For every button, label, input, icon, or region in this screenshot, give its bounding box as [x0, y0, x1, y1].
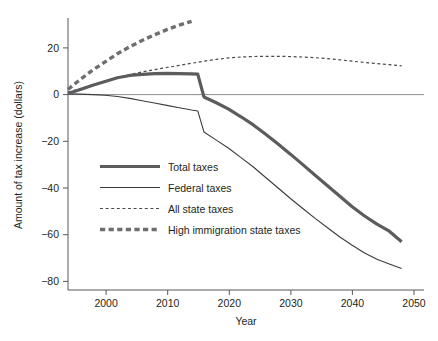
- y-tick-label: −40: [41, 182, 59, 194]
- x-tick-label: 2020: [218, 297, 242, 309]
- series-line-all-state-taxes: [68, 56, 402, 92]
- series-line-federal-taxes: [68, 94, 402, 269]
- x-tick-label: 2000: [94, 297, 118, 309]
- legend-label: High immigration state taxes: [168, 224, 300, 236]
- y-tick-label: 0: [53, 88, 59, 100]
- x-tick-label: 2010: [156, 297, 180, 309]
- y-tick-label: −80: [41, 275, 59, 287]
- y-tick-label: 20: [47, 42, 59, 54]
- legend-item-total-taxes: Total taxes: [100, 161, 218, 173]
- chart-container: 20 0 −20 −40 −60 −80 2000 2010 2020 2030…: [0, 0, 438, 341]
- y-tick-label: −60: [41, 228, 59, 240]
- legend-item-high-immigration-state-taxes: High immigration state taxes: [100, 224, 300, 236]
- legend-item-all-state-taxes: All state taxes: [100, 203, 233, 215]
- legend-label: All state taxes: [168, 203, 233, 215]
- x-axis-tick-labels: 2000 2010 2020 2030 2040 2050: [94, 297, 425, 309]
- legend-label: Federal taxes: [168, 182, 232, 194]
- x-tick-label: 2050: [402, 297, 426, 309]
- x-tick-label: 2040: [341, 297, 365, 309]
- series-line-total-taxes: [68, 73, 402, 241]
- series-line-high-immigration-state-taxes: [68, 21, 192, 89]
- x-axis-ticks: [106, 290, 414, 295]
- legend-item-federal-taxes: Federal taxes: [100, 182, 232, 194]
- legend-label: Total taxes: [168, 161, 218, 173]
- line-chart: 20 0 −20 −40 −60 −80 2000 2010 2020 2030…: [0, 0, 438, 341]
- chart-legend: Total taxes Federal taxes All state taxe…: [100, 161, 300, 236]
- y-axis-tick-labels: 20 0 −20 −40 −60 −80: [41, 42, 59, 288]
- x-tick-label: 2030: [279, 297, 303, 309]
- y-axis-ticks: [63, 48, 68, 282]
- y-axis-title: Amount of tax increase (dollars): [12, 81, 24, 229]
- y-tick-label: −20: [41, 135, 59, 147]
- x-axis-title: Year: [235, 315, 257, 327]
